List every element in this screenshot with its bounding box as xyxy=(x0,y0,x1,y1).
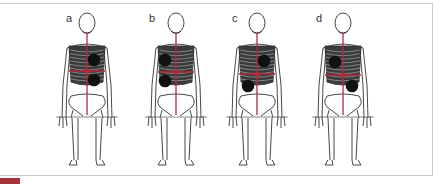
marker-spot xyxy=(159,75,172,88)
marker-spot xyxy=(242,80,255,93)
skeleton-panel-c xyxy=(226,13,288,165)
skeleton-diagram xyxy=(0,0,441,184)
skeleton-panel-b xyxy=(145,13,207,165)
skeleton-panel-a xyxy=(56,13,118,165)
marker-spot xyxy=(88,54,101,67)
marker-spot xyxy=(159,54,172,67)
marker-spot xyxy=(329,56,342,69)
marker-spot xyxy=(88,74,101,87)
skeleton-panel-d xyxy=(312,13,374,165)
marker-spot xyxy=(258,55,271,68)
marker-spot xyxy=(346,80,359,93)
